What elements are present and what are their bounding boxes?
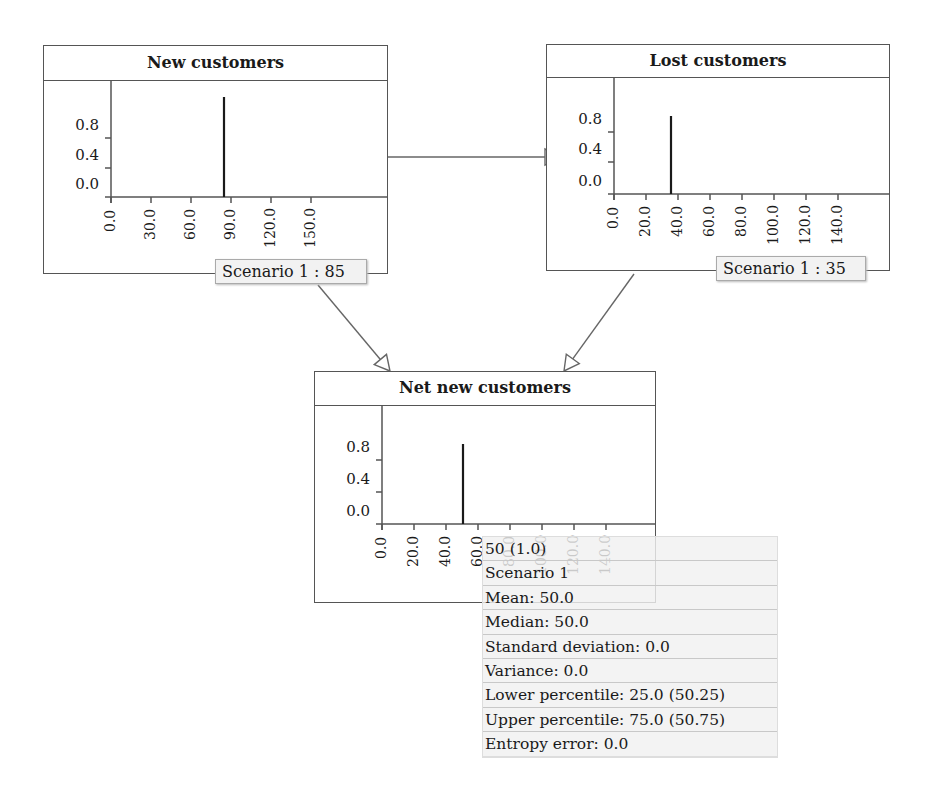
scenario-value-label: Scenario 1 : 35 xyxy=(716,256,866,281)
x-tick-label: 0.0 xyxy=(605,206,621,228)
x-tick-label: 90.0 xyxy=(222,209,238,240)
y-tick-label: 0.4 xyxy=(59,146,99,164)
x-tick-label: 40.0 xyxy=(669,206,685,237)
edge-new-to-net[interactable] xyxy=(318,285,390,371)
node-title: Net new customers xyxy=(315,372,655,406)
y-tick-label: 0.0 xyxy=(562,172,602,190)
x-tick-label: 100.0 xyxy=(765,205,781,245)
tooltip-entropy-error: Entropy error: 0.0 xyxy=(483,732,777,756)
arrowhead-icon xyxy=(374,354,390,371)
tooltip-scenario: Scenario 1 xyxy=(483,561,777,585)
x-tick-label: 0.0 xyxy=(373,536,389,558)
x-tick-label: 150.0 xyxy=(302,208,318,248)
node-info-tooltip: 50 (1.0) Scenario 1 Mean: 50.0 Median: 5… xyxy=(482,536,778,758)
y-tick-label: 0.8 xyxy=(330,438,370,456)
y-tick-label: 0.0 xyxy=(330,502,370,520)
x-tick-label: 40.0 xyxy=(437,536,453,567)
tooltip-lower-percentile: Lower percentile: 25.0 (50.25) xyxy=(483,683,777,707)
x-tick-label: 20.0 xyxy=(637,206,653,237)
tooltip-variance: Variance: 0.0 xyxy=(483,659,777,683)
x-tick-label: 120.0 xyxy=(262,208,278,248)
tooltip-median: Median: 50.0 xyxy=(483,610,777,634)
y-tick-label: 0.0 xyxy=(59,175,99,193)
arrowhead-icon xyxy=(564,354,579,371)
x-tick-label: 140.0 xyxy=(829,205,845,245)
tooltip-std-dev: Standard deviation: 0.0 xyxy=(483,635,777,659)
edge-lost-to-net[interactable] xyxy=(564,274,634,371)
node-title: New customers xyxy=(44,46,387,81)
x-tick-label: 80.0 xyxy=(733,206,749,237)
y-tick-label: 0.4 xyxy=(562,140,602,158)
tooltip-upper-percentile: Upper percentile: 75.0 (50.75) xyxy=(483,708,777,732)
y-tick-label: 0.8 xyxy=(59,116,99,134)
scenario-value-label: Scenario 1 : 85 xyxy=(215,259,367,284)
y-tick-label: 0.4 xyxy=(330,470,370,488)
x-tick-label: 0.0 xyxy=(102,209,118,231)
x-tick-label: 60.0 xyxy=(701,206,717,237)
edge-new-to-lost[interactable] xyxy=(388,149,560,165)
tooltip-mean: Mean: 50.0 xyxy=(483,586,777,610)
node-title: Lost customers xyxy=(547,45,889,78)
y-tick-label: 0.8 xyxy=(562,110,602,128)
x-tick-label: 20.0 xyxy=(405,536,421,567)
x-tick-label: 120.0 xyxy=(797,205,813,245)
x-tick-label: 30.0 xyxy=(142,209,158,240)
tooltip-value: 50 (1.0) xyxy=(483,537,777,561)
x-tick-label: 60.0 xyxy=(182,209,198,240)
